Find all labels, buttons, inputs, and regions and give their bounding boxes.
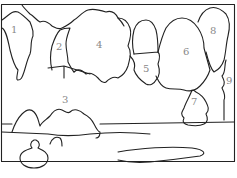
region-4-outline — [74, 18, 131, 83]
region-label-9: 9 — [226, 75, 232, 86]
shore-line — [2, 132, 150, 136]
vase-outline — [20, 140, 48, 168]
frame-border — [2, 5, 235, 162]
region-label-4: 4 — [96, 39, 102, 50]
ground-line-left — [48, 66, 90, 78]
region-label-2: 2 — [56, 41, 62, 52]
region-label-5: 5 — [143, 63, 149, 74]
region-1-outline — [2, 12, 33, 80]
region-label-1: 1 — [11, 24, 17, 35]
region-9-outline — [222, 60, 226, 120]
region-label-6: 6 — [183, 46, 189, 57]
tree-above-5-outline — [133, 20, 159, 54]
pond-outline — [118, 147, 204, 162]
canopy-ridge — [22, 5, 124, 29]
landscape-diagram: 1 2 3 4 5 6 7 8 9 — [0, 0, 237, 178]
horizon-line — [2, 122, 234, 124]
region-3-outline — [12, 109, 100, 138]
bush-3-base — [50, 137, 62, 146]
region-label-7: 7 — [191, 96, 197, 107]
region-label-3: 3 — [62, 94, 68, 105]
region-label-8: 8 — [210, 25, 216, 36]
